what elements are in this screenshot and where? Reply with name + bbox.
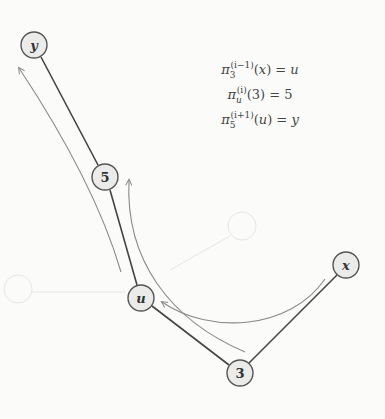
eq-subscript: 5 bbox=[230, 120, 236, 130]
eq-result: u bbox=[290, 62, 298, 77]
eq-argument: 3 bbox=[252, 87, 260, 102]
node-y: y bbox=[21, 32, 47, 58]
equation-2: πu(i)(3) = 5 bbox=[205, 83, 315, 108]
node-3: 3 bbox=[227, 360, 253, 386]
eq-superscript: (i−1) bbox=[231, 60, 254, 70]
node-label-y: y bbox=[29, 38, 39, 53]
eq-argument: x bbox=[259, 62, 266, 77]
pi-symbol: π bbox=[227, 87, 236, 102]
edge-u-3 bbox=[152, 306, 229, 365]
node-label-u: u bbox=[136, 291, 145, 306]
node-5: 5 bbox=[92, 164, 118, 190]
equation-3: π5(i+1)(u) = y bbox=[205, 108, 315, 133]
eq-subscript: 3 bbox=[230, 70, 236, 80]
eq-superscript: (i+1) bbox=[231, 110, 254, 120]
edge-3-x bbox=[249, 275, 337, 363]
node-label-x: x bbox=[341, 258, 350, 273]
edge-5-u bbox=[110, 190, 137, 285]
eq-superscript: (i) bbox=[237, 85, 247, 95]
equation-1: π3(i−1)(x) = u bbox=[205, 58, 315, 83]
edge-y-5 bbox=[41, 57, 98, 165]
eq-subscript: u bbox=[236, 95, 242, 105]
eq-argument: u bbox=[259, 112, 267, 127]
eq-result: y bbox=[291, 112, 298, 127]
node-x: x bbox=[333, 252, 359, 278]
node-u: u bbox=[128, 285, 154, 311]
arrow-3-to-5 bbox=[129, 180, 245, 352]
pi-symbol: π bbox=[221, 62, 230, 77]
pi-symbol: π bbox=[221, 112, 230, 127]
node-label-3: 3 bbox=[235, 366, 244, 381]
equations-block: π3(i−1)(x) = u πu(i)(3) = 5 π5(i+1)(u) =… bbox=[205, 58, 315, 133]
path-diagram: y 5 u 3 x bbox=[0, 0, 385, 419]
node-label-5: 5 bbox=[100, 170, 109, 185]
eq-result: 5 bbox=[284, 87, 292, 102]
